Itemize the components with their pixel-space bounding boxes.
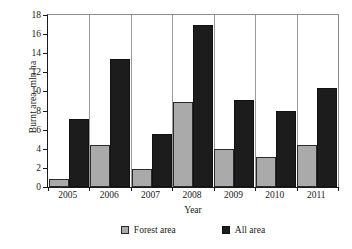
y-axis-tick bbox=[43, 91, 48, 92]
bar-2005-forest-area bbox=[49, 179, 69, 187]
bar-2006-all-area bbox=[110, 59, 130, 187]
plot-inner: 024681012141618 bbox=[48, 15, 338, 187]
y-tick-label: 8 bbox=[36, 106, 41, 116]
y-tick-label: 6 bbox=[36, 125, 41, 135]
y-axis-tick bbox=[43, 168, 48, 169]
legend-label-forest-area: Forest area bbox=[134, 225, 176, 235]
bar-2007-forest-area bbox=[132, 169, 152, 187]
x-tick-label-2010: 2010 bbox=[265, 190, 284, 200]
y-axis-tick bbox=[43, 111, 48, 112]
bar-2010-forest-area bbox=[256, 157, 276, 187]
y-tick-label: 0 bbox=[36, 182, 41, 192]
chart-figure: Burnt area, mln ha 024681012141618 Year … bbox=[0, 0, 352, 249]
y-tick-label: 14 bbox=[32, 48, 42, 58]
x-axis-tick bbox=[338, 187, 339, 191]
x-axis-label: Year bbox=[47, 205, 339, 215]
bar-2009-forest-area bbox=[214, 149, 234, 187]
x-axis-tick bbox=[172, 187, 173, 191]
y-axis-tick bbox=[43, 72, 48, 73]
x-tick-label-2011: 2011 bbox=[307, 190, 326, 200]
x-tick-label-2005: 2005 bbox=[58, 190, 77, 200]
x-tick-label-2009: 2009 bbox=[224, 190, 243, 200]
group-separator-line bbox=[131, 15, 132, 187]
y-tick-label: 4 bbox=[36, 144, 41, 154]
y-axis-tick bbox=[43, 130, 48, 131]
legend-item-all-area: All area bbox=[222, 225, 265, 235]
x-tick-label-2006: 2006 bbox=[100, 190, 119, 200]
y-axis-tick bbox=[43, 53, 48, 54]
y-tick-label: 18 bbox=[32, 10, 42, 20]
legend-swatch-all-area bbox=[222, 226, 230, 234]
y-tick-label: 2 bbox=[36, 163, 41, 173]
plot-area: 024681012141618 bbox=[47, 14, 339, 188]
legend-label-all-area: All area bbox=[235, 225, 265, 235]
chart-legend: Forest area All area bbox=[47, 225, 339, 235]
x-tick-label-2008: 2008 bbox=[183, 190, 202, 200]
x-axis-tick bbox=[297, 187, 298, 191]
x-axis-tick bbox=[48, 187, 49, 191]
x-axis-tick bbox=[214, 187, 215, 191]
x-tick-label-2007: 2007 bbox=[141, 190, 160, 200]
legend-swatch-forest-area bbox=[121, 226, 129, 234]
y-tick-label: 12 bbox=[32, 67, 42, 77]
bar-2007-all-area bbox=[152, 134, 172, 187]
bar-2005-all-area bbox=[69, 119, 89, 187]
legend-item-forest-area: Forest area bbox=[121, 225, 176, 235]
x-axis-tick bbox=[131, 187, 132, 191]
bar-2006-forest-area bbox=[90, 145, 110, 187]
bar-2008-forest-area bbox=[173, 102, 193, 187]
y-tick-label: 10 bbox=[32, 86, 42, 96]
bar-2010-all-area bbox=[276, 111, 296, 187]
bar-2008-all-area bbox=[193, 25, 213, 187]
bar-2011-all-area bbox=[317, 88, 337, 187]
y-axis-tick bbox=[43, 34, 48, 35]
y-tick-label: 16 bbox=[32, 29, 42, 39]
x-axis-tick bbox=[255, 187, 256, 191]
x-axis-tick bbox=[89, 187, 90, 191]
bar-2009-all-area bbox=[234, 100, 254, 187]
bar-2011-forest-area bbox=[297, 145, 317, 187]
y-axis-tick bbox=[43, 15, 48, 16]
y-axis-tick bbox=[43, 149, 48, 150]
